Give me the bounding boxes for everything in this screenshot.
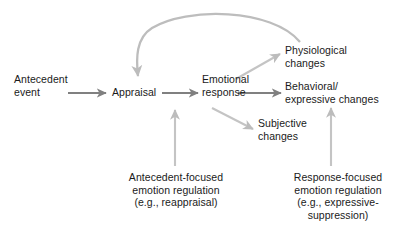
- node-antecedent-focused-emotion-regulation: Antecedent-focused emotion regulation (e…: [108, 171, 244, 209]
- emotion-regulation-diagram: Antecedent event Appraisal Emotional res…: [0, 0, 408, 236]
- node-behavioral-expressive-changes: Behavioral/ expressive changes: [285, 80, 403, 105]
- arrow-emotional-response-to-subjective: [212, 108, 253, 129]
- node-antecedent-event: Antecedent event: [14, 73, 98, 98]
- node-emotional-response: Emotional response: [202, 73, 264, 98]
- node-appraisal: Appraisal: [112, 86, 174, 99]
- node-physiological-changes: Physiological changes: [285, 44, 395, 69]
- node-response-focused-emotion-regulation: Response-focused emotion regulation (e.g…: [278, 171, 398, 221]
- node-subjective-changes: Subjective changes: [258, 117, 350, 142]
- arrow-feedback-loop-to-appraisal: [137, 14, 300, 76]
